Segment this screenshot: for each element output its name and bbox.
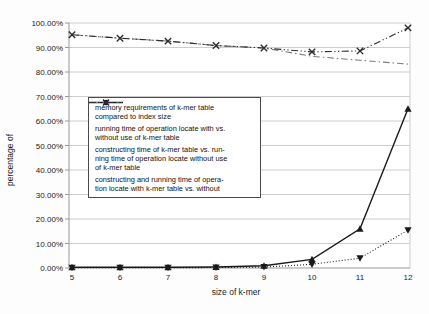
y-tick-label: 70.00% xyxy=(36,93,63,102)
y-tick-label: 80.00% xyxy=(36,68,63,77)
x-tick-label: 7 xyxy=(166,273,171,282)
legend-line-sample xyxy=(89,98,123,107)
y-tick-label: 50.00% xyxy=(36,142,63,151)
y-axis-title: percentage of xyxy=(5,133,15,186)
y-tick-label: 10.00% xyxy=(36,240,63,249)
x-tick-label: 8 xyxy=(214,273,219,282)
x-tick-label: 6 xyxy=(118,273,123,282)
y-tick-label: 60.00% xyxy=(36,117,63,126)
x-tick-label: 12 xyxy=(404,273,413,282)
y-tick-label: 20.00% xyxy=(36,215,63,224)
legend-entry-label: running time of operation locate with vs… xyxy=(95,124,225,142)
legend-entry: running time of operation locate with vs… xyxy=(95,124,255,142)
x-tick-label: 10 xyxy=(308,273,317,282)
chart-figure: 0.00%10.00%20.00%30.00%40.00%50.00%60.00… xyxy=(0,0,429,314)
x-tick-label: 11 xyxy=(356,273,365,282)
y-tick-label: 40.00% xyxy=(36,166,63,175)
y-tick-label: 90.00% xyxy=(36,44,63,53)
x-tick-label: 9 xyxy=(262,273,267,282)
y-tick-label: 100.00% xyxy=(31,19,63,28)
x-tick-label: 5 xyxy=(70,273,75,282)
y-tick-label: 30.00% xyxy=(36,191,63,200)
legend-entry: constructing and running time of opera- … xyxy=(95,175,255,193)
y-tick-label: 0.00% xyxy=(40,264,63,273)
chart-legend: memory requirements of k-mer table compa… xyxy=(88,97,261,198)
legend-entry-label: constructing time of k-mer table vs. run… xyxy=(95,145,227,172)
legend-entry-label: constructing and running time of opera- … xyxy=(95,175,224,193)
x-axis-title: size of k-mer xyxy=(212,287,261,297)
legend-entry: constructing time of k-mer table vs. run… xyxy=(95,145,255,172)
